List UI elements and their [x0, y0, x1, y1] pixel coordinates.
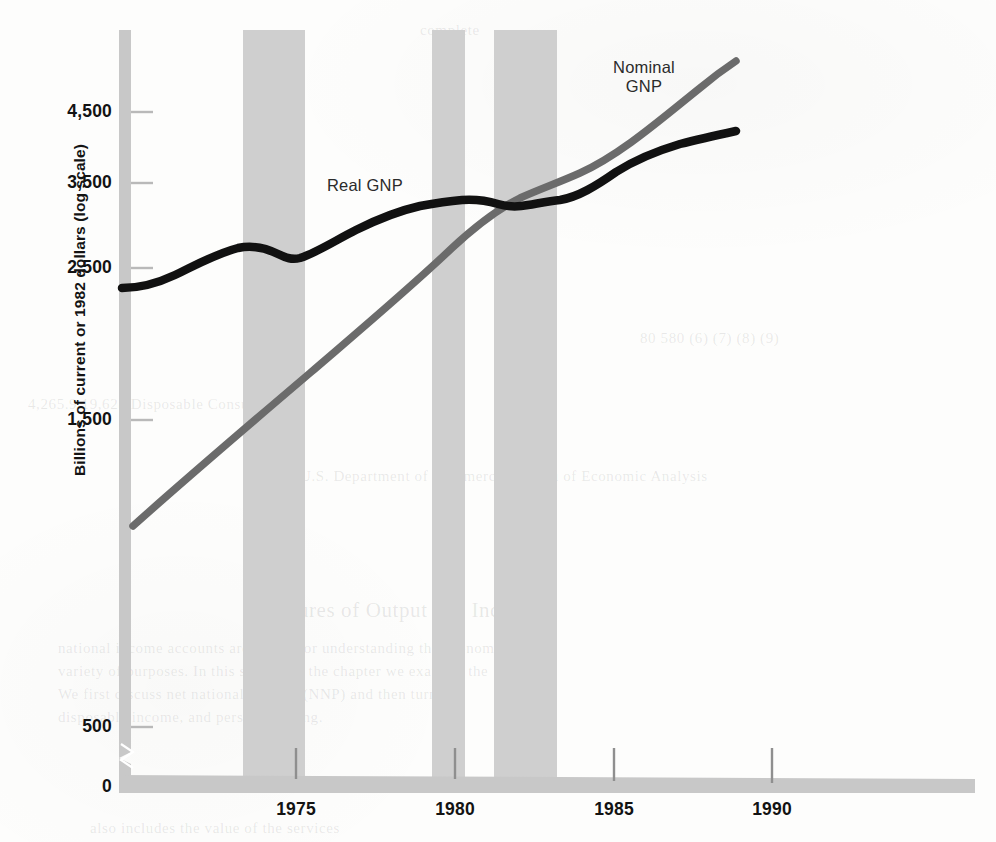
x-tick-label-1985: 1985	[564, 799, 664, 820]
series-label-nominal-gnp: Nominal GNP	[592, 58, 696, 97]
x-axis-bar	[119, 775, 975, 793]
x-tick-label-1980: 1980	[405, 799, 505, 820]
x-tick-label-1975: 1975	[246, 799, 346, 820]
y-tick-label-3500: 3,500	[0, 172, 112, 193]
series-label-nominal-gnp-line1: Nominal	[613, 58, 675, 76]
y-axis-title: Billions of current or 1982 dollars (log…	[71, 50, 89, 570]
y-tick-label-2500: 2,500	[0, 257, 112, 278]
y-tick-label-1500: 1,500	[0, 409, 112, 430]
chart-canvas	[0, 0, 996, 842]
y-tick-label-0: 0	[0, 776, 112, 797]
y-tick-label-500: 500	[0, 716, 112, 737]
series-label-nominal-gnp-line2: GNP	[626, 77, 662, 95]
recession-band	[494, 30, 557, 785]
recession-band	[432, 30, 465, 785]
series-label-real-gnp: Real GNP	[327, 176, 403, 195]
gnp-chart-figure: 4,265.9 19,628 Disposable Consump 80 580…	[0, 0, 996, 842]
recession-bands	[243, 30, 557, 785]
y-ticks	[131, 112, 153, 727]
x-tick-label-1990: 1990	[722, 799, 822, 820]
y-tick-label-4500: 4,500	[0, 101, 112, 122]
y-axis-bar	[119, 30, 131, 742]
